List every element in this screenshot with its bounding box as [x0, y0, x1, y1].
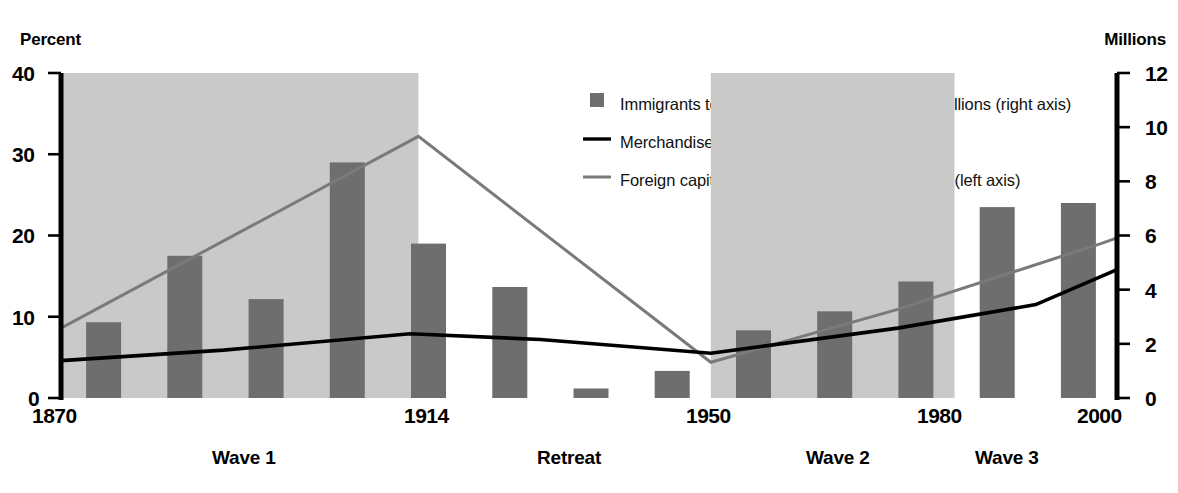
legend-markers	[583, 93, 611, 177]
bar-1920s	[492, 287, 527, 398]
bar-1910s	[411, 244, 446, 398]
bar-1930s	[574, 389, 609, 399]
bar-1990s	[1061, 203, 1096, 398]
chart-root: Percent Millions 40 30 20 10 0 12 10 8 6…	[0, 0, 1178, 493]
bar-1950s	[736, 330, 771, 398]
bar-1900s	[330, 162, 365, 398]
bar-1880s	[167, 256, 202, 398]
legend-marker-square-immigrants	[590, 93, 604, 107]
bar-1940s	[655, 371, 690, 398]
chart-canvas	[0, 0, 1178, 493]
bar-1980s	[980, 207, 1015, 398]
